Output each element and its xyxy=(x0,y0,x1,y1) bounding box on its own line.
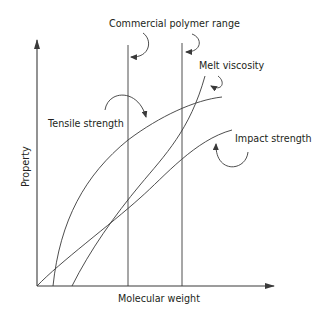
tensile-arrow-icon xyxy=(105,95,146,117)
commercial-range-label: Commercial polymer range xyxy=(109,18,240,29)
impact-strength-curve xyxy=(37,130,232,286)
impact-arrow-icon xyxy=(216,144,248,167)
impact-strength-label: Impact strength xyxy=(235,133,312,144)
polymer-property-diagram: Commercial polymer range Melt viscosity … xyxy=(0,0,323,320)
y-axis-label: Property xyxy=(20,146,31,187)
x-axis-label: Molecular weight xyxy=(118,293,200,304)
range-lower-arrow-icon xyxy=(131,33,149,57)
range-upper-arrow-icon xyxy=(186,34,199,52)
melt-viscosity-label: Melt viscosity xyxy=(199,60,265,71)
tensile-strength-label: Tensile strength xyxy=(47,118,124,129)
melt-arrow-icon xyxy=(211,76,222,88)
